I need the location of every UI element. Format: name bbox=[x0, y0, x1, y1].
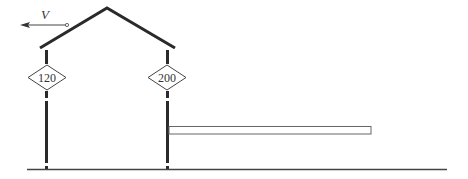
velocity-arrow bbox=[20, 22, 69, 28]
left-mass-label: 120 bbox=[38, 71, 56, 85]
right-mass-label: 200 bbox=[158, 71, 176, 85]
roof bbox=[40, 8, 175, 48]
horizontal-beam bbox=[169, 127, 371, 135]
velocity-label: V bbox=[41, 7, 51, 22]
frame-diagram: V 120 200 bbox=[0, 0, 468, 179]
